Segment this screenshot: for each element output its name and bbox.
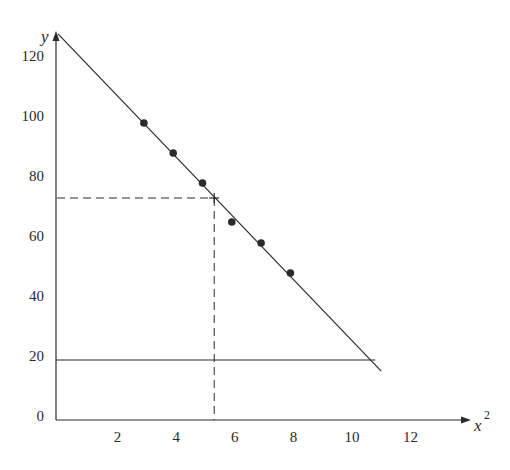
y-tick-label: 40	[29, 288, 44, 304]
axes	[53, 31, 472, 424]
fit-line	[58, 34, 381, 371]
y-axis-arrow-icon	[53, 31, 60, 41]
fit-line-segment	[58, 34, 381, 371]
x-tick-labels: 24681012	[114, 429, 418, 445]
y-tick-label: 120	[22, 48, 45, 64]
x-tick-label: 8	[290, 429, 298, 445]
data-point	[228, 218, 236, 226]
y-tick-label: 100	[22, 108, 45, 124]
x-tick-label: 12	[403, 429, 418, 445]
y-tick-label: 60	[29, 228, 44, 244]
y-axis-label: y	[39, 27, 49, 46]
x-tick-label: 4	[172, 429, 180, 445]
data-point	[287, 269, 295, 277]
x-tick-label: 2	[114, 429, 122, 445]
data-point	[199, 179, 207, 187]
y-tick-label: 80	[29, 168, 44, 184]
chart: 020406080100120 24681012 y x 2	[0, 0, 510, 470]
x-axis-label: x	[473, 416, 482, 435]
y-tick-labels: 020406080100120	[22, 48, 45, 424]
y-tick-label: 20	[29, 348, 44, 364]
x-tick-label: 6	[231, 429, 239, 445]
cross-marker	[209, 193, 219, 203]
data-point	[257, 239, 265, 247]
dashed-guide-lines	[57, 198, 214, 420]
data-point	[140, 119, 148, 127]
x-axis-label-superscript: 2	[484, 408, 490, 422]
y-tick-label: 0	[37, 408, 45, 424]
data-point	[169, 149, 177, 157]
x-tick-label: 10	[345, 429, 360, 445]
x-axis-arrow-icon	[461, 417, 471, 424]
